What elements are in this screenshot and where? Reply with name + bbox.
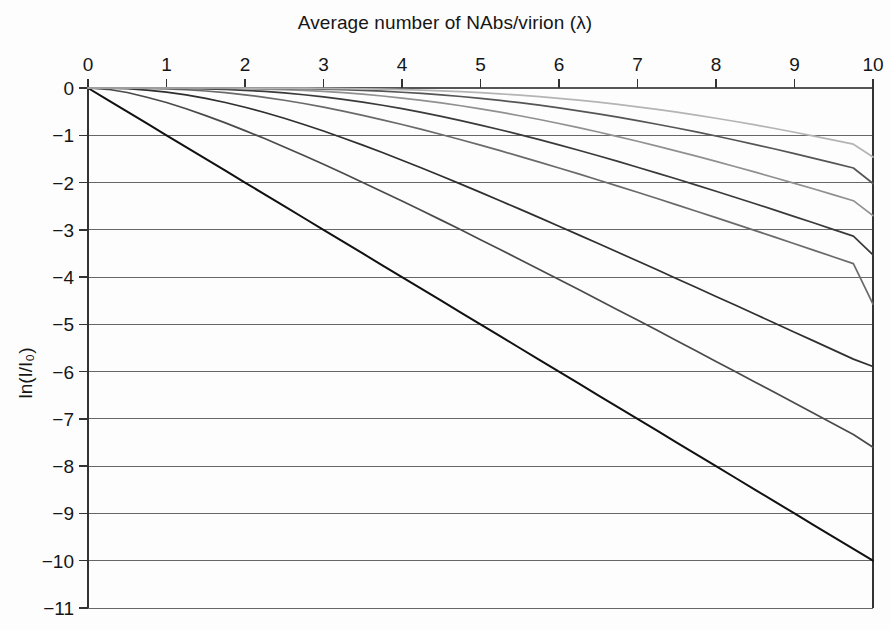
y-tick-label-0: 0 xyxy=(63,78,74,99)
x-tick-label-6: 6 xyxy=(554,54,565,75)
y-tick-label--3: −3 xyxy=(52,220,74,241)
y-tick-label--8: −8 xyxy=(52,456,74,477)
y-tick-label--2: −2 xyxy=(52,173,74,194)
y-tick-label--10: −10 xyxy=(42,551,74,572)
x-tick-label-1: 1 xyxy=(161,54,172,75)
data-series-curve-7 xyxy=(88,88,873,183)
y-tick-label--5: −5 xyxy=(52,314,74,335)
y-axis-ticks-group xyxy=(79,88,88,608)
x-axis-ticks-group xyxy=(88,79,873,88)
y-tick-label--11: −11 xyxy=(43,598,74,619)
y-tick-label--1: −1 xyxy=(52,125,74,146)
x-axis-tick-labels-group: 012345678910 xyxy=(83,54,884,75)
x-tick-label-8: 8 xyxy=(711,54,722,75)
y-tick-label--6: −6 xyxy=(52,362,74,383)
x-tick-label-4: 4 xyxy=(397,54,408,75)
x-tick-label-10: 10 xyxy=(862,54,883,75)
chart-plot-area: 012345678910 0−1−2−3−4−5−6−7−8−9−10−11 xyxy=(0,0,890,630)
data-series-curve-6 xyxy=(88,88,873,216)
y-tick-label--9: −9 xyxy=(52,503,74,524)
x-tick-label-2: 2 xyxy=(240,54,251,75)
x-tick-label-3: 3 xyxy=(318,54,329,75)
y-axis-tick-labels-group: 0−1−2−3−4−5−6−7−8−9−10−11 xyxy=(42,78,75,619)
x-tick-label-9: 9 xyxy=(789,54,800,75)
y-tick-label--7: −7 xyxy=(52,409,74,430)
x-tick-label-7: 7 xyxy=(632,54,643,75)
data-series-curve-2 xyxy=(88,88,873,447)
data-series-curve-4 xyxy=(88,88,873,304)
figure-panel: Average number of NAbs/virion (λ) ln(I/I… xyxy=(0,0,890,630)
axes-group xyxy=(88,88,873,608)
x-tick-label-0: 0 xyxy=(83,54,94,75)
gridlines-group xyxy=(88,88,873,608)
x-tick-label-5: 5 xyxy=(475,54,486,75)
y-tick-label--4: −4 xyxy=(52,267,74,288)
